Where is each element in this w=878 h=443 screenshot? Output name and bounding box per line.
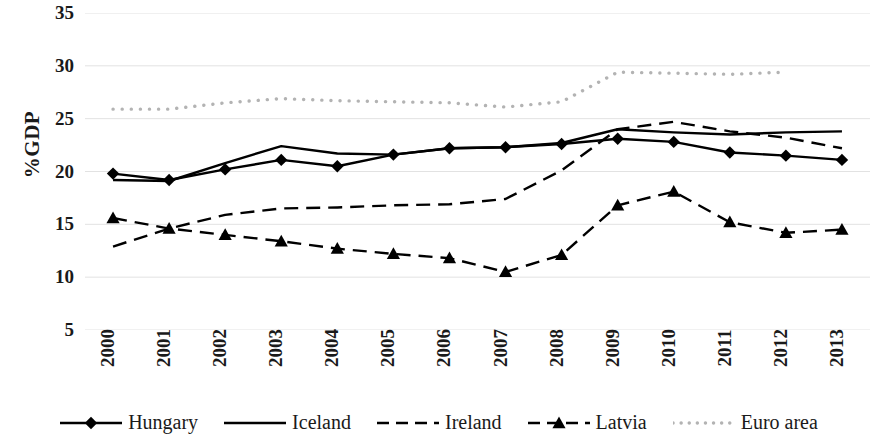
plot-svg: [85, 13, 870, 330]
legend-swatch-solid-marker: [60, 414, 122, 432]
legend-label: Iceland: [292, 411, 351, 434]
data-point-marker: [836, 154, 848, 166]
data-point-marker: [275, 154, 287, 166]
x-tick-label: 2007: [490, 313, 512, 383]
data-point-marker: [611, 133, 623, 145]
x-tick-label: 2012: [770, 313, 792, 383]
x-tick-label: 2013: [826, 313, 848, 383]
legend-label: Latvia: [596, 411, 647, 434]
legend-item-euro-area[interactable]: Euro area: [673, 411, 818, 434]
x-tick-label: 2003: [265, 313, 287, 383]
legend-swatch-dashed: [377, 414, 439, 432]
series-latvia: [106, 185, 848, 277]
y-tick-label: 10: [16, 266, 74, 288]
x-tick-label: 2008: [546, 313, 568, 383]
x-tick-label: 2002: [209, 313, 231, 383]
gridlines: [85, 13, 870, 330]
legend-swatch-dotted: [673, 414, 735, 432]
x-tick-label: 2005: [377, 313, 399, 383]
data-point-marker: [331, 160, 343, 172]
legend-item-latvia[interactable]: Latvia: [528, 411, 647, 434]
data-point-marker: [668, 136, 680, 148]
legend-swatch-solid: [224, 414, 286, 432]
y-tick-label: 15: [16, 213, 74, 235]
data-point-marker: [555, 248, 568, 260]
legend-swatch-dashed-marker: [528, 414, 590, 432]
series-euro-area: [113, 72, 786, 109]
data-point-marker: [723, 216, 736, 228]
data-point-marker: [106, 211, 119, 223]
y-tick-label: 25: [16, 108, 74, 130]
data-point-marker: [724, 146, 736, 158]
x-tick-label: 2011: [714, 313, 736, 383]
data-point-marker: [219, 228, 232, 240]
chart-legend: HungaryIcelandIrelandLatviaEuro area: [0, 402, 878, 443]
data-point-marker: [107, 167, 119, 179]
y-axis-tick-labels: 5101520253035: [0, 0, 74, 443]
y-tick-label: 20: [16, 161, 74, 183]
plot-area: [85, 13, 870, 330]
x-tick-label: 2010: [658, 313, 680, 383]
data-point-marker: [780, 149, 792, 161]
x-axis-tick-labels: 2000200120022003200420052006200720082009…: [85, 332, 870, 402]
x-tick-label: 2001: [153, 313, 175, 383]
data-point-marker: [667, 185, 680, 197]
legend-item-hungary[interactable]: Hungary: [60, 411, 198, 434]
x-tick-label: 2000: [97, 313, 119, 383]
y-tick-label: 35: [16, 2, 74, 24]
legend-item-iceland[interactable]: Iceland: [224, 411, 351, 434]
x-tick-label: 2004: [321, 313, 343, 383]
legend-label: Euro area: [741, 411, 818, 434]
y-tick-label: 30: [16, 55, 74, 77]
x-tick-label: 2006: [433, 313, 455, 383]
series-ireland: [113, 122, 842, 247]
series-hungary: [107, 133, 848, 187]
chart-container: %GDP 5101520253035 200020012002200320042…: [0, 0, 878, 443]
legend-item-ireland[interactable]: Ireland: [377, 411, 502, 434]
x-tick-label: 2009: [602, 313, 624, 383]
legend-label: Hungary: [128, 411, 198, 434]
y-tick-label: 5: [16, 319, 74, 341]
legend-label: Ireland: [445, 411, 502, 434]
